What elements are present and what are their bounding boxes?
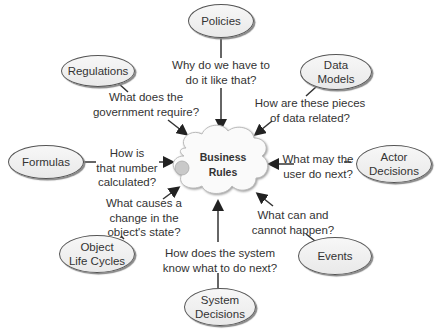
node-data-models[interactable]: Data Models <box>300 54 372 90</box>
question-actor-decisions: What may the user do next? <box>280 152 356 181</box>
node-system-decisions[interactable]: System Decisions <box>184 288 256 326</box>
node-policies[interactable]: Policies <box>188 4 254 38</box>
node-label: System Decisions <box>195 293 245 321</box>
node-formulas[interactable]: Formulas <box>8 145 84 179</box>
node-label: Events <box>317 249 352 263</box>
node-label: Formulas <box>22 155 70 169</box>
question-formulas: How is that number calculated? <box>94 146 160 190</box>
question-events: What can and cannot happen? <box>248 208 338 237</box>
node-label: Actor Decisions <box>369 150 419 178</box>
question-data-models: How are these pieces of data related? <box>248 96 372 125</box>
node-label: Object Life Cycles <box>69 240 125 268</box>
node-regulations[interactable]: Regulations <box>61 55 135 87</box>
question-system-decisions: How does the system know what to do next… <box>158 246 282 275</box>
center-node-label: Business Rules <box>194 150 252 180</box>
node-object-life-cycles[interactable]: Object Life Cycles <box>59 235 135 273</box>
node-actor-decisions[interactable]: Actor Decisions <box>356 145 432 183</box>
question-object-life-cycles: What causes a change in the object's sta… <box>104 196 184 240</box>
node-label: Policies <box>201 14 241 28</box>
node-label: Regulations <box>68 64 129 78</box>
node-events[interactable]: Events <box>298 237 372 275</box>
question-policies: Why do we have to do it like that? <box>160 58 282 87</box>
node-label: Data Models <box>317 58 354 86</box>
question-regulations: What does the government require? <box>92 90 200 119</box>
